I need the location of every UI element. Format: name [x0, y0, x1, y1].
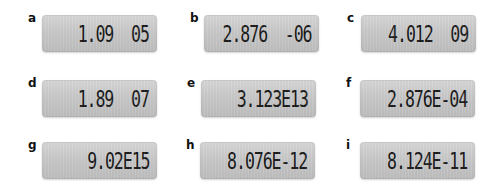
lcd-display: 8.124E-11: [360, 142, 475, 179]
panel-c: c 4.012 09: [347, 11, 497, 71]
lcd-readout: 3.123E13: [237, 86, 308, 112]
lcd-readout: 9.02E15: [87, 148, 149, 174]
panel-label: c: [347, 11, 354, 25]
lcd-readout: 8.124E-11: [387, 148, 467, 174]
panel-label: a: [28, 11, 36, 25]
lcd-readout: 8.076E-12: [227, 148, 307, 174]
lcd-display: 2.876E-04: [360, 80, 475, 117]
panel-label: i: [346, 138, 350, 152]
lcd-readout: 2.876 -06: [222, 21, 311, 47]
panel-label: g: [28, 138, 37, 152]
lcd-display: 1.09 05: [42, 15, 157, 52]
panel-b: b 2.876 -06: [190, 11, 350, 71]
panel-label: d: [28, 76, 37, 90]
panel-d: d 1.89 07: [28, 76, 188, 136]
panel-f: f 2.876E-04: [346, 76, 497, 136]
panel-e: e 3.123E13: [187, 76, 347, 136]
panel-h: h 8.076E-12: [186, 138, 346, 192]
panel-label: e: [187, 76, 195, 90]
lcd-readout: 1.09 05: [78, 21, 149, 47]
panel-i: i 8.124E-11: [346, 138, 497, 192]
lcd-readout: 4.012 09: [388, 21, 468, 47]
lcd-display: 8.076E-12: [200, 142, 315, 179]
lcd-readout: 2.876E-04: [387, 86, 467, 112]
lcd-display: 9.02E15: [42, 142, 157, 179]
lcd-display: 4.012 09: [361, 15, 476, 52]
panel-label: b: [190, 11, 199, 25]
lcd-display: 1.89 07: [42, 80, 157, 117]
lcd-readout: 1.89 07: [78, 86, 149, 112]
panel-a: a 1.09 05: [28, 11, 188, 71]
lcd-display: 3.123E13: [201, 80, 316, 117]
panel-g: g 9.02E15: [28, 138, 188, 192]
lcd-display: 2.876 -06: [204, 15, 319, 52]
panel-label: f: [346, 76, 351, 90]
panel-label: h: [186, 138, 195, 152]
